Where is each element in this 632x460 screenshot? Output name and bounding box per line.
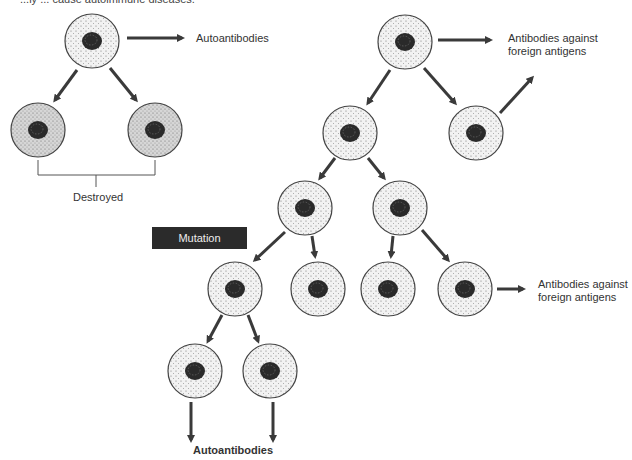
arrow-down-right-icon — [248, 315, 258, 341]
cell-destroyed-right — [128, 103, 182, 157]
arrow-down-left-icon — [55, 70, 77, 100]
cell-gen3-left — [278, 181, 332, 235]
arrow-down-icon — [391, 236, 393, 256]
cell-gen4-b — [291, 262, 345, 316]
arrow-up-right-icon — [500, 78, 532, 113]
cell-gen2-left — [323, 106, 377, 160]
cell-gen4-d — [438, 262, 492, 316]
cell-destroyed-left — [11, 103, 65, 157]
cell-gen4-mutant — [208, 262, 262, 316]
cell-left-parent — [65, 14, 119, 68]
arrow-down-left-icon — [320, 158, 335, 178]
clonal-expansion-diagram — [0, 0, 632, 460]
cell-right-parent — [378, 15, 432, 69]
arrow-down-right-icon — [424, 68, 455, 103]
arrow-down-left-icon — [368, 70, 390, 103]
cell-gen5-left — [168, 344, 222, 398]
arrow-down-left-icon — [208, 315, 222, 341]
arrow-down-icon — [312, 236, 315, 256]
label-destroyed: Destroyed — [73, 191, 123, 204]
label-antibodies-mid: Antibodies against foreign antigens — [538, 278, 628, 304]
destroyed-bracket — [38, 160, 155, 187]
arrow-down-right-icon — [422, 230, 448, 260]
cell-gen5-right — [243, 344, 297, 398]
cell-gen3-right — [373, 181, 427, 235]
arrow-down-right-icon — [368, 158, 384, 178]
cell-gen4-c — [361, 262, 415, 316]
arrow-down-left-icon — [255, 232, 285, 260]
label-autoantibodies-top: Autoantibodies — [196, 32, 269, 45]
cell-gen2-right — [449, 106, 503, 160]
label-antibodies-top: Antibodies against foreign antigens — [508, 32, 598, 58]
arrow-down-right-icon — [110, 68, 136, 100]
label-autoantibodies-bottom: Autoantibodies — [193, 444, 273, 457]
mutation-label: Mutation — [152, 227, 247, 249]
